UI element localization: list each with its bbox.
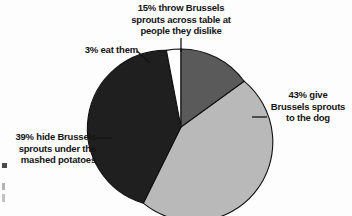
scan-artifact-mark-lower: [2, 194, 5, 202]
pie-label-eat: 3% eat them: [48, 44, 138, 56]
pie-label-dog: 43% give Brussels sprouts to the dog: [266, 89, 350, 124]
pie-chart-page: 15% throw Brussels sprouts across table …: [0, 0, 352, 216]
scan-artifact-square: [2, 163, 7, 168]
scan-artifact-mark-upper: [2, 183, 5, 190]
pie-label-throw: 15% throw Brussels sprouts across table …: [96, 2, 266, 37]
pie-label-hide: 39% hide Brussels sprouts under the mash…: [2, 131, 96, 166]
